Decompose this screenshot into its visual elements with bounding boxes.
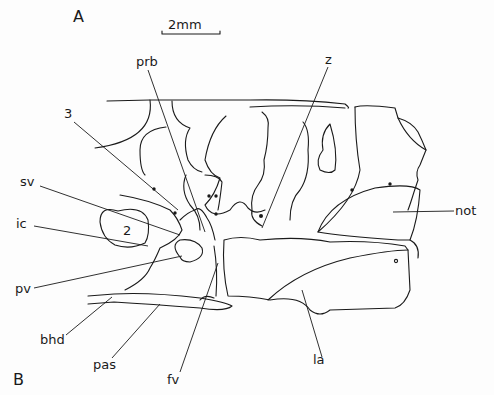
label-pv: pv xyxy=(15,282,31,295)
label-bhd: bhd xyxy=(40,333,65,346)
leader-not xyxy=(393,211,454,212)
label-la: la xyxy=(313,353,325,366)
leader-pv xyxy=(34,256,182,288)
panel-label-a: A xyxy=(73,9,84,25)
label-not: not xyxy=(455,204,476,217)
panel-label-b: B xyxy=(13,372,24,388)
leader-3 xyxy=(74,122,178,210)
leader-bhd xyxy=(66,297,112,335)
leader-pas xyxy=(112,304,160,358)
leader-fv xyxy=(180,263,218,372)
label-2: 2 xyxy=(123,224,131,237)
label-sv: sv xyxy=(20,175,34,188)
leader-z xyxy=(262,67,328,228)
label-ic: ic xyxy=(16,217,27,230)
label-fv: fv xyxy=(167,373,179,386)
leader-la xyxy=(302,290,322,357)
label-z: z xyxy=(325,53,332,66)
leader-prb xyxy=(148,70,205,232)
label-3: 3 xyxy=(64,107,72,120)
scale-bar-label: 2mm xyxy=(168,18,202,31)
label-prb: prb xyxy=(136,55,158,68)
anatomical-diagram: A 2mm prb z 3 sv ic 2 pv bhd pas B fv la… xyxy=(0,0,494,395)
label-pas: pas xyxy=(93,358,116,371)
line-drawing xyxy=(0,0,494,395)
